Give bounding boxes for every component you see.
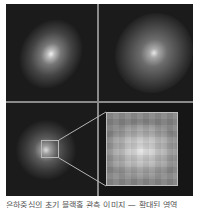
vertical-divider — [97, 4, 99, 196]
galaxy-panel-top-left — [6, 4, 97, 101]
inset-selection-box — [41, 140, 59, 158]
galaxy-panel-top-right — [99, 4, 193, 101]
zoomed-inset-image — [106, 112, 178, 186]
figure-caption: 은하중심의 초기 블랙홀 관측 이미지 — 확대된 영역 — [6, 199, 177, 208]
image-figure — [6, 4, 193, 196]
galaxy-panel-bottom-left — [6, 103, 97, 196]
zoomed-inset-panel — [99, 103, 193, 196]
galaxy-core-glow — [7, 8, 95, 100]
galaxy-core-glow — [99, 4, 193, 101]
pixel-grid — [107, 113, 177, 185]
horizontal-divider — [6, 101, 193, 103]
